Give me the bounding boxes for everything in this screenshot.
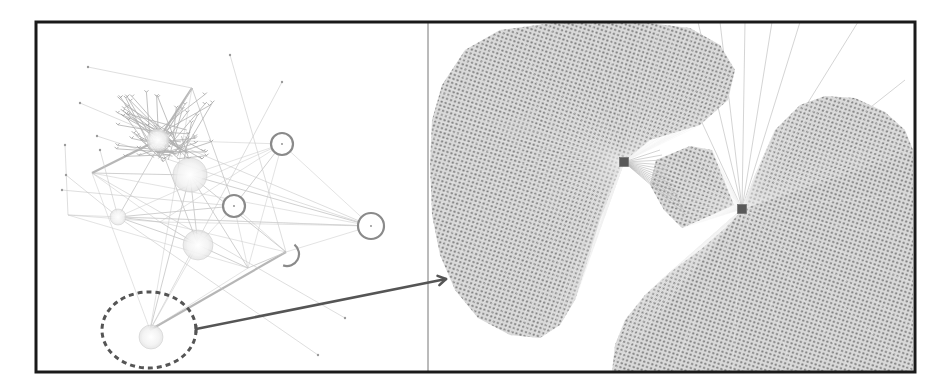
overview-edge	[92, 173, 150, 330]
overview-leaf-node	[64, 144, 66, 146]
overview-soft-clusters	[110, 129, 213, 349]
tree-leaf-icon	[122, 106, 126, 108]
tree-leaf-icon	[203, 93, 207, 95]
overview-ring-nodes	[223, 133, 384, 239]
soft-cluster-node	[139, 325, 163, 349]
ring-node-center	[370, 225, 372, 227]
soft-cluster-node	[173, 158, 207, 192]
tree-leaf-icon	[183, 102, 187, 104]
overview-leaf-node	[281, 81, 283, 83]
overview-edge	[100, 150, 118, 217]
tree-leaf-icon	[144, 90, 148, 92]
overview-leaf-node	[79, 102, 81, 104]
tree-leaf-icon	[205, 154, 209, 156]
overview-edge	[92, 173, 160, 222]
overview-edge	[118, 206, 234, 217]
tree-leaf-icon	[193, 134, 197, 136]
tree-leaf-icon	[155, 94, 159, 96]
overview-edge	[150, 175, 190, 330]
detail-panel	[430, 22, 913, 372]
ring-node-center	[281, 143, 283, 145]
tree-leaf-icon	[132, 131, 136, 133]
overview-leaf-node	[65, 174, 67, 176]
overview-edge	[160, 222, 371, 226]
hub-node-hub-b	[738, 205, 747, 214]
tree-leaf-icon	[174, 106, 178, 108]
tree-leaf-icon	[161, 160, 165, 162]
tree-leaf-icon	[130, 136, 134, 138]
tree-leaf-icon	[203, 102, 207, 104]
overview-tree-cluster	[115, 90, 215, 161]
detail-edge	[742, 22, 745, 209]
overview-leaf-node	[99, 149, 101, 151]
tree-leaf-icon	[116, 111, 120, 113]
overview-leaf-node	[96, 135, 98, 137]
hub-node-hub-a	[620, 158, 629, 167]
overview-panel	[61, 54, 384, 368]
overview-leaf-node	[344, 317, 346, 319]
network-zoom-figure	[0, 0, 943, 392]
tree-leaf-icon	[125, 112, 129, 114]
tree-leaf-icon	[121, 109, 125, 111]
tree-branch	[125, 155, 170, 157]
tree-leaf-icon	[116, 123, 120, 125]
ring-node-center	[233, 205, 235, 207]
overview-leaf-node	[61, 189, 63, 191]
tree-leaf-icon	[116, 143, 120, 145]
overview-edge	[66, 175, 118, 217]
overview-edge	[65, 145, 68, 215]
overview-edge	[88, 67, 192, 88]
tree-branch	[128, 120, 151, 151]
tree-leaf-icon	[125, 95, 129, 97]
partial-ring-node	[283, 245, 299, 266]
zoom-arrow	[196, 276, 446, 333]
overview-leaf-node	[87, 66, 89, 68]
soft-cluster-node	[110, 209, 126, 225]
overview-leaf-node	[229, 54, 231, 56]
tree-leaf-icon	[185, 110, 189, 112]
tree-leaf-icon	[130, 95, 134, 97]
tree-leaf-icon	[210, 101, 214, 103]
overview-edge	[150, 252, 286, 330]
zoom-arrow-shaft	[196, 279, 446, 329]
soft-cluster-node	[183, 230, 213, 260]
figure-canvas	[0, 0, 943, 392]
overview-leaf-node	[317, 354, 319, 356]
soft-cluster-node	[147, 129, 169, 151]
tree-branch	[155, 95, 204, 133]
tree-leaf-icon	[200, 157, 204, 159]
